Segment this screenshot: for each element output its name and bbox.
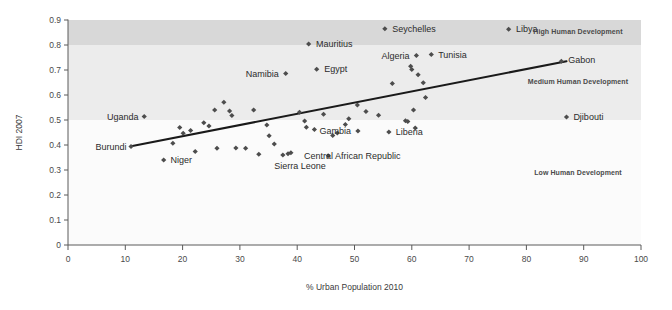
x-tick-label: 10: [121, 254, 131, 264]
x-tick-label: 70: [464, 254, 474, 264]
x-tick-label: 50: [350, 254, 360, 264]
plot-bands: [68, 20, 641, 245]
point-label: Burundi: [95, 142, 126, 152]
point-label: Niger: [171, 155, 193, 165]
point-label: Djibouti: [573, 112, 603, 122]
band-label: Low Human Development: [534, 169, 622, 177]
y-tick-label: 0.1: [49, 215, 61, 225]
chart-figure: 00.10.20.30.40.50.60.70.80.9010203040506…: [0, 0, 672, 310]
point-label: Algeria: [381, 51, 409, 61]
y-tick-label: 0.9: [49, 15, 61, 25]
point-label: Sierra Leone: [274, 161, 326, 171]
y-tick-label: 0.2: [49, 190, 61, 200]
point-label: Egypt: [324, 64, 348, 74]
x-tick-label: 0: [66, 254, 71, 264]
y-tick-label: 0: [56, 240, 61, 250]
y-tick-label: 0.5: [49, 115, 61, 125]
band-label: Medium Human Development: [528, 78, 629, 86]
y-tick-label: 0.6: [49, 90, 61, 100]
x-tick-label: 80: [522, 254, 532, 264]
point-label: Gambia: [320, 126, 352, 136]
point-label: Uganda: [107, 112, 139, 122]
y-tick-label: 0.3: [49, 165, 61, 175]
x-tick-label: 30: [235, 254, 245, 264]
point-label: Namibia: [246, 69, 279, 79]
point-label: Liberia: [396, 127, 423, 137]
x-axis-title: % Urban Population 2010: [306, 282, 403, 292]
x-tick-label: 100: [634, 254, 648, 264]
band-low: [68, 120, 641, 245]
x-tick-label: 40: [292, 254, 302, 264]
y-tick-label: 0.4: [49, 140, 61, 150]
scatter-plot-svg: 00.10.20.30.40.50.60.70.80.9010203040506…: [0, 0, 672, 310]
x-tick-label: 60: [407, 254, 417, 264]
y-tick-label: 0.7: [49, 65, 61, 75]
point-label: Seychelles: [392, 24, 436, 34]
band-label: High Human Development: [533, 28, 623, 36]
point-label: Central African Republic: [304, 151, 401, 161]
y-tick-label: 0.8: [49, 40, 61, 50]
point-label: Tunisia: [438, 50, 467, 60]
x-tick-label: 20: [178, 254, 188, 264]
point-label: Gabon: [568, 55, 595, 65]
y-axis-title: HDI 2007: [14, 114, 24, 150]
x-tick-label: 90: [579, 254, 589, 264]
point-label: Mauritius: [316, 39, 353, 49]
